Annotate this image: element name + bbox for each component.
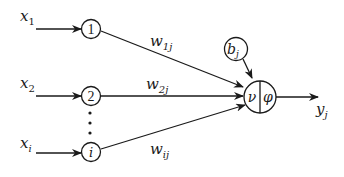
bias: bj (225, 38, 253, 79)
ellipsis-dots (88, 111, 91, 134)
input-node-i-label: i (89, 145, 93, 160)
summation-label: ν (248, 89, 257, 105)
weight-edge-1 (101, 31, 243, 87)
input-node-1-label: 1 (88, 22, 95, 37)
input-i-label: xi (20, 134, 32, 154)
weight-label-1: w1j (150, 32, 172, 52)
activation-label: φ (263, 89, 273, 105)
input-i: xi i (20, 134, 101, 162)
bias-arrow (243, 59, 252, 78)
output-neuron: ν φ (244, 81, 276, 113)
input-1-label: x1 (20, 7, 35, 27)
input-2-label: x2 (20, 74, 35, 94)
neuron-diagram: x1 1 x2 2 xi i w1j w2j wij bj ν (0, 0, 344, 177)
input-2: x2 2 (20, 74, 101, 106)
weight-label-2: w2j (146, 75, 168, 95)
weight-label-i: wij (150, 140, 169, 160)
input-1: x1 1 (20, 7, 101, 39)
output-label: yj (315, 100, 328, 120)
weight-edge-i (101, 105, 245, 149)
input-node-2-label: 2 (88, 89, 95, 104)
